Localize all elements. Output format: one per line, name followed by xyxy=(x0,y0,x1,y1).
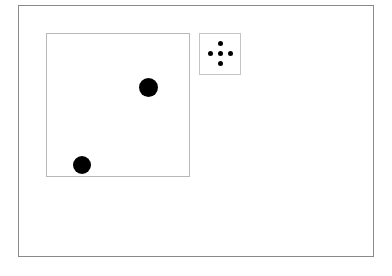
move-right-icon xyxy=(228,51,233,56)
move-left-icon xyxy=(208,51,213,56)
move-up-icon xyxy=(218,41,223,46)
target-dot-upper[interactable] xyxy=(139,78,158,97)
move-down-icon xyxy=(218,61,223,66)
move-center-icon xyxy=(218,51,223,56)
target-dot-lower[interactable] xyxy=(73,156,91,174)
move-control-button[interactable] xyxy=(199,33,241,75)
play-area[interactable] xyxy=(46,33,190,177)
